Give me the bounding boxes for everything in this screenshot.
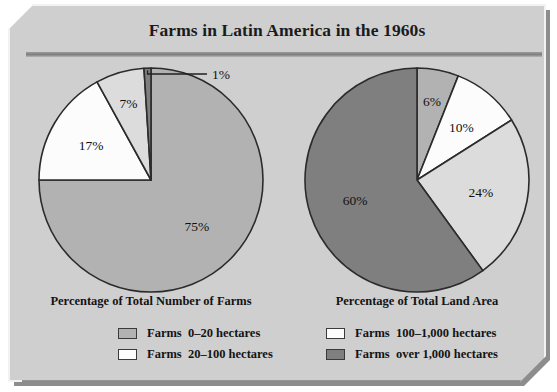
legend-swatch-1 bbox=[118, 349, 137, 360]
legend-item-2: Farms 100–1,000 hectares bbox=[326, 324, 557, 342]
pie-left-caption: Percentage of Total Number of Farms bbox=[26, 294, 276, 309]
legend-label-2: Farms 100–1,000 hectares bbox=[355, 326, 496, 341]
legend-item-3: Farms over 1,000 hectares bbox=[326, 345, 557, 363]
pie-slice-label: 60% bbox=[343, 193, 368, 208]
pie-left-svg: 75%17%7%1% bbox=[35, 64, 267, 296]
legend-label-1: Farms 20–100 hectares bbox=[147, 347, 273, 362]
charts-container: 75%17%7%1% Percentage of Total Number of… bbox=[20, 62, 554, 318]
pie-right-caption: Percentage of Total Land Area bbox=[292, 294, 542, 309]
pie-left-canvas: 75%17%7%1% bbox=[35, 64, 267, 300]
pie-slice-callout-label: 1% bbox=[212, 67, 230, 82]
legend: Farms 0–20 hectares Farms 20–100 hectare… bbox=[20, 324, 554, 376]
pie-right-canvas: 6%10%24%60% bbox=[301, 64, 533, 300]
title-divider-rule bbox=[26, 52, 542, 57]
pie-slice-label: 6% bbox=[423, 94, 441, 109]
panel-inner: Farms in Latin America in the 1960s 75%1… bbox=[20, 12, 554, 386]
page-title: Farms in Latin America in the 1960s bbox=[20, 20, 554, 41]
pie-chart-number-of-farms: 75%17%7%1% Percentage of Total Number of… bbox=[26, 62, 276, 318]
pie-chart-total-land-area: 6%10%24%60% Percentage of Total Land Are… bbox=[292, 62, 542, 318]
legend-swatch-0 bbox=[118, 328, 137, 339]
legend-column-right: Farms 100–1,000 hectares Farms over 1,00… bbox=[326, 324, 557, 366]
chart-panel: Farms in Latin America in the 1960s 75%1… bbox=[8, 4, 546, 382]
figure-root: Farms in Latin America in the 1960s 75%1… bbox=[0, 0, 557, 392]
pie-slice-label: 75% bbox=[185, 219, 210, 234]
pie-slice-label: 17% bbox=[79, 138, 104, 153]
pie-slice-label: 24% bbox=[468, 185, 493, 200]
legend-label-3: Farms over 1,000 hectares bbox=[355, 347, 498, 362]
pie-slice-label: 10% bbox=[449, 120, 474, 135]
legend-label-0: Farms 0–20 hectares bbox=[147, 326, 260, 341]
legend-swatch-3 bbox=[326, 349, 345, 360]
pie-slice-label: 7% bbox=[120, 96, 138, 111]
legend-swatch-2 bbox=[326, 328, 345, 339]
pie-right-svg: 6%10%24%60% bbox=[301, 64, 533, 296]
